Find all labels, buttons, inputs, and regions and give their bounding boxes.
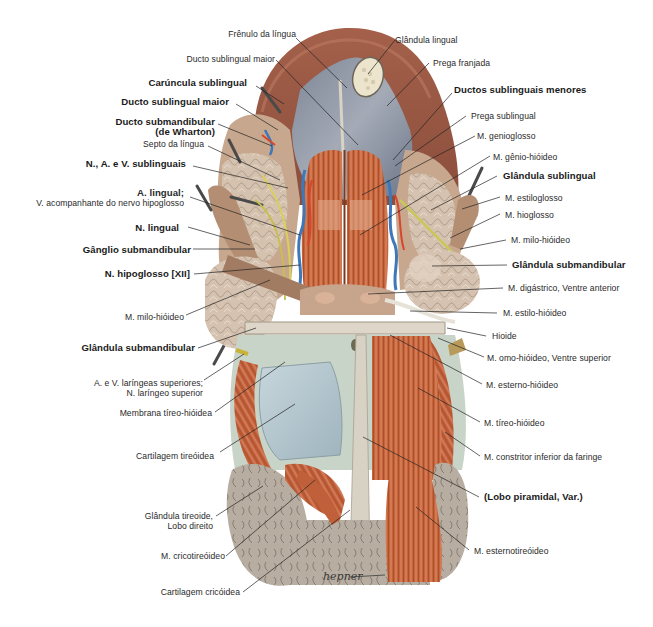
label-ganglio-submandibular: Gânglio submandibular [83, 245, 191, 255]
anatomy-figure: hepner [0, 0, 653, 627]
label-hioglosso: M. hioglosso [505, 210, 554, 220]
label-cartilagem-tireoidea: Cartilagem tireóidea [136, 451, 214, 461]
label-frenulo-lingua: Frênulo da língua [228, 29, 296, 39]
label-ducto-submandibular: Ducto submandibular(de Wharton) [115, 117, 215, 137]
label-omo-hioideo: M. omo-hióideo, Ventre superior [487, 353, 611, 363]
label-glandula-lingual: Glândula lingual [395, 35, 457, 45]
label-esternotireoideo: M. esternotireóideo [474, 546, 549, 556]
label-nav-sublinguais: N., A. e V. sublinguais [86, 159, 186, 169]
label-milo-hioideo-right: M. milo-hióideo [511, 235, 570, 245]
label-glandula-submandibular-right: Glândula submandibular [512, 260, 626, 270]
label-constritor-inferior: M. constritor inferior da faringe [484, 452, 602, 462]
label-ductos-sublinguais-menores: Ductos sublinguais menores [454, 85, 586, 95]
right-sternohyoid [372, 336, 442, 480]
label-membrana-tireo-hioidea: Membrana tíreo-hióidea [120, 408, 212, 418]
label-cricotireoideo: M. cricotireóideo [161, 551, 225, 561]
label-glandula-submandibular-left: Glândula submandibular [81, 343, 195, 353]
label-glandula-tireoide: Glândula tireoide,Lobo direito [145, 511, 213, 531]
label-n-lingual: N. lingual [135, 223, 179, 233]
label-ducto-sublingual-maior-top: Ducto sublingual maior [186, 54, 275, 64]
label-ducto-sublingual-maior: Ducto sublingual maior [121, 97, 229, 107]
label-esterno-hioideo: M. esterno-hióideo [486, 380, 558, 390]
label-caruncula-sublingual: Carúncula sublingual [148, 78, 247, 88]
thyroid-cartilage [259, 362, 342, 460]
label-estilo-hioideo: M. estilo-hióideo [503, 308, 566, 318]
label-cartilagem-cricoidea: Cartilagem cricóidea [161, 587, 240, 597]
label-genioglosso: M. genioglosso [477, 131, 536, 141]
label-milo-hioideo-left: M. milo-hióideo [125, 312, 184, 322]
label-digastrico: M. digástrico, Ventre anterior [508, 283, 619, 293]
hyoid-bone [245, 322, 445, 334]
label-prega-sublingual: Prega sublingual [471, 111, 536, 121]
label-hioide: Hioide [492, 331, 517, 341]
label-n-hipoglosso: N. hipoglosso [XII] [105, 269, 190, 279]
label-laringeas-superiores: A. e V. laríngeas superiores;N. laríngeo… [94, 378, 203, 398]
label-lobo-piramidal: (Lobo piramidal, Var.) [484, 492, 583, 502]
label-tireo-hioideo: M. tíreo-hióideo [484, 418, 545, 428]
label-glandula-sublingual: Glândula sublingual [503, 171, 596, 181]
label-genio-hioideo: M. gênio-hióideo [493, 152, 557, 162]
label-septo-lingua: Septo da língua [143, 139, 204, 149]
label-a-lingual: A. lingual;V. acompanhante do nervo hipo… [36, 188, 184, 208]
label-estiloglosso: M. estiloglosso [505, 193, 563, 203]
label-prega-franjada: Prega franjada [433, 58, 490, 68]
